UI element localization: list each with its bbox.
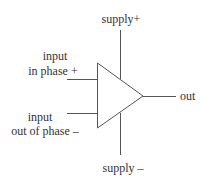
input-minus-label-line1: input: [28, 110, 53, 124]
input-plus-label-line2: in phase +: [28, 64, 78, 78]
op-amp-diagram: supply+ input in phase + input out of ph…: [0, 0, 204, 193]
input-minus-label-line2: out of phase –: [11, 124, 80, 138]
input-plus-label-line1: input: [43, 49, 68, 63]
output-label: out: [180, 89, 196, 103]
supply-plus-label: supply+: [102, 12, 141, 26]
supply-minus-label: supply –: [102, 161, 144, 175]
